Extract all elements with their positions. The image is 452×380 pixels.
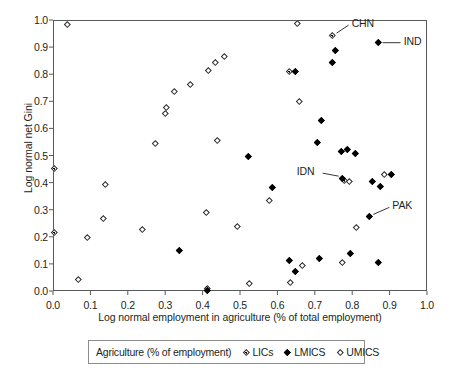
- annotation-label-ind: IND: [404, 36, 422, 47]
- x-tick-label: 0.4: [186, 295, 220, 307]
- y-tick-label-text: 1.0: [22, 15, 48, 25]
- x-tick-label: 0.1: [73, 295, 107, 307]
- legend-marker-lmics-icon: [284, 349, 291, 356]
- plot-area: CHNINDIDNPAK: [53, 20, 427, 291]
- x-tick-label: 0.5: [223, 295, 257, 307]
- legend-entries: LICsLMICSUMICS: [231, 346, 379, 358]
- x-tick-label: 0.8: [335, 295, 369, 307]
- scatter-chart-figure: CHNINDIDNPAK 0.00.10.20.30.40.50.60.70.8…: [0, 0, 452, 380]
- legend-entry-lmics: LMICS: [284, 346, 325, 358]
- y-tick-label: 0.1: [16, 259, 48, 269]
- x-tick-label: 0.9: [373, 295, 407, 307]
- annotation-label-chn: CHN: [352, 18, 374, 29]
- x-tick-label-text: 0.3: [158, 299, 172, 311]
- annotation-label-idn: IDN: [297, 166, 315, 177]
- legend-title: Agriculture (% of employment): [96, 346, 231, 358]
- x-tick-label-text: 0.7: [308, 299, 322, 311]
- legend-marker-umics-icon: [336, 349, 343, 356]
- x-tick-label-text: 0.0: [46, 299, 60, 311]
- x-tick-label: 0.7: [298, 295, 332, 307]
- x-tick-label-text: 0.8: [345, 299, 359, 311]
- x-tick-label: 0.3: [148, 295, 182, 307]
- legend-label: UMICS: [346, 346, 379, 358]
- y-axis-title: Log normal net Gini: [22, 48, 34, 248]
- legend-entry-lics: LICs: [242, 346, 273, 358]
- x-tick-label-text: 0.2: [121, 299, 135, 311]
- legend-label: LMICS: [294, 346, 325, 358]
- x-tick-label-text: 0.6: [270, 299, 284, 311]
- legend: Agriculture (% of employment) LICsLMICSU…: [88, 340, 365, 364]
- legend-label: LICs: [252, 346, 273, 358]
- x-axis-title: Log normal employment in agriculture (% …: [53, 311, 427, 323]
- legend-marker-lics-icon: [242, 349, 249, 356]
- x-tick-label-text: 0.9: [383, 299, 397, 311]
- x-tick-label-text: 1.0: [420, 299, 434, 311]
- legend-entry-umics: UMICS: [336, 346, 379, 358]
- y-tick-label: 1.0: [16, 15, 48, 25]
- x-tick-label-text: 0.4: [196, 299, 210, 311]
- x-tick-label-text: 0.1: [83, 299, 97, 311]
- annotation-label-pak: PAK: [392, 200, 412, 211]
- x-tick-label: 1.0: [410, 295, 444, 307]
- x-tick-label: 0.2: [111, 295, 145, 307]
- x-tick-label: 0.0: [36, 295, 70, 307]
- y-tick-label-text: 0.1: [22, 259, 48, 269]
- x-tick-label-text: 0.5: [233, 299, 247, 311]
- annotation-leader-lines: [54, 21, 428, 292]
- x-tick-label: 0.6: [260, 295, 294, 307]
